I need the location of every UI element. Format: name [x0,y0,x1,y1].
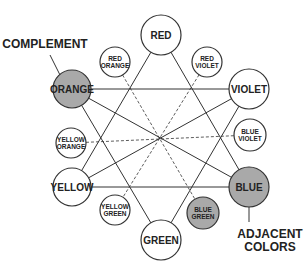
yellow-orange-label: ORANGE [57,143,86,150]
blue-green-label: BLUE [194,206,212,213]
node-yellow-orange: YELLOWORANGE [56,128,86,158]
orange-label: ORANGE [50,84,94,95]
node-blue: BLUE [229,167,269,207]
node-violet: VIOLET [229,69,269,109]
color-wheel-diagram: REDREDVIOLETVIOLETBLUEVIOLETBLUEBLUEGREE… [0,0,305,271]
blue-label: BLUE [235,182,263,193]
node-red: RED [141,15,181,55]
adjacent-colors-label: ADJACENT [237,227,303,241]
node-blue-violet: BLUEVIOLET [234,119,266,151]
red-violet-label: VIOLET [195,62,219,69]
adjacent-colors-label: COLORS [244,240,295,254]
green-label: GREEN [143,235,179,246]
red-orange-label: RED [108,55,122,62]
red-orange-label: ORANGE [101,62,130,69]
connection-lines [71,35,250,240]
node-orange: ORANGE [50,70,94,108]
dashed-line-red-violet-yellow-green [115,62,207,210]
node-yellow-green: YELLOWGREEN [100,195,130,225]
blue-violet-label: BLUE [241,128,259,135]
blue-violet-label: VIOLET [238,135,262,142]
violet-label: VIOLET [231,84,267,95]
node-red-violet: REDVIOLET [192,47,222,77]
red-violet-label: RED [200,55,214,62]
node-green: GREEN [141,220,181,260]
node-red-orange: REDORANGE [100,47,130,77]
red-label: RED [150,30,171,41]
yellow-orange-label: YELLOW [57,136,86,143]
node-blue-green: BLUEGREEN [187,197,219,229]
yellow-label: YELLOW [51,182,94,193]
node-yellow: YELLOW [51,168,94,206]
yellow-green-label: GREEN [103,210,126,217]
complement-label: COMPLEMENT [2,37,88,51]
blue-green-label: GREEN [191,213,214,220]
complement-leader-line [50,55,60,75]
yellow-green-label: YELLOW [101,203,130,210]
